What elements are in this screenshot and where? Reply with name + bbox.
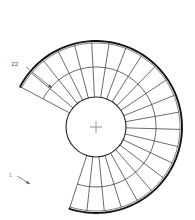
center-mark-group xyxy=(90,121,102,133)
tread-divider-line xyxy=(22,88,70,113)
tread-divider-line xyxy=(101,44,109,97)
tread-divider-line xyxy=(105,156,121,208)
tread-divider-line xyxy=(121,80,166,110)
tread-divider-line xyxy=(92,43,95,97)
tread-divider-line xyxy=(126,128,180,130)
step-label-label-22: 22 xyxy=(11,61,18,67)
stair-end-cap-finish xyxy=(69,207,70,209)
step-label-label-1: 1 xyxy=(9,172,13,178)
tread-divider-line xyxy=(112,56,141,102)
annotation-group: 221 xyxy=(9,61,52,184)
spiral-staircase-plan: 221 xyxy=(0,0,195,220)
tread-divider-line xyxy=(70,156,87,207)
leader-arrowhead-label-1 xyxy=(26,181,30,184)
leader-line-label-22 xyxy=(26,67,52,88)
tread-divider-line xyxy=(99,157,104,211)
tread-divider-line xyxy=(58,52,82,100)
tread-divider-line xyxy=(111,153,137,200)
plan-drawing-svg: 221 xyxy=(0,0,195,220)
tread-divider-line xyxy=(126,112,179,122)
tread-divider-line xyxy=(75,46,89,98)
tread-divider-line xyxy=(87,157,93,211)
